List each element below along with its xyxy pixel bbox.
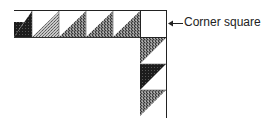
side-block-3: [140, 90, 166, 118]
top-block-2: [32, 11, 59, 37]
side-block-1: [140, 38, 166, 64]
top-block-3: [59, 11, 86, 37]
top-block-4: [86, 11, 113, 37]
side-block-2: [140, 64, 166, 90]
side-column: [140, 38, 167, 118]
top-block-5: [113, 11, 140, 37]
corner-square-label: Corner square: [184, 15, 261, 29]
left-arrow-icon: [168, 21, 183, 27]
top-row: [14, 11, 140, 38]
corner-square: [141, 11, 167, 38]
top-block-1: [14, 11, 32, 37]
